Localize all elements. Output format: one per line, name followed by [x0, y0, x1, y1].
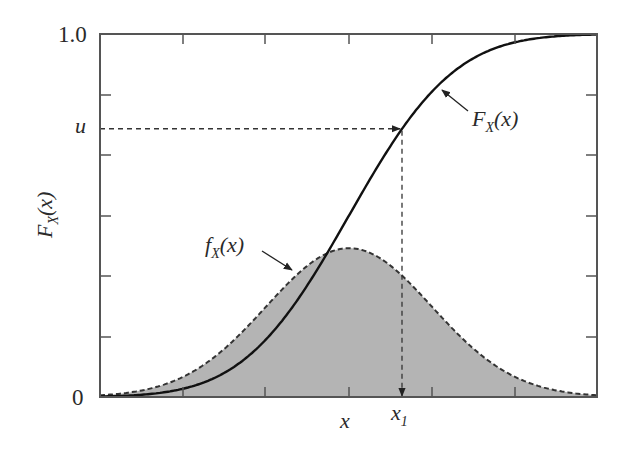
pdf-annotation-label: fX(x) [205, 234, 244, 256]
chart-canvas [0, 0, 631, 451]
cdf-annotation-label: FX(x) [472, 108, 518, 130]
cdf-label-main: F [472, 106, 485, 131]
cdf-annotation-arrow [442, 90, 468, 111]
pdf-annotation-arrow [262, 251, 292, 270]
x1-main: x [391, 400, 401, 425]
ylabel-subscript: X [46, 216, 61, 225]
x-tick-label-x1: x1 [391, 402, 408, 424]
y-axis-label: FX(x) [34, 168, 56, 238]
cdf-label-subscript: X [485, 120, 494, 135]
ylabel-main: F [32, 225, 57, 238]
x1-subscript: 1 [401, 414, 408, 429]
pdf-label-arg: (x) [220, 232, 244, 257]
y-tick-label-top: 1.0 [58, 23, 87, 46]
pdf-shaded-area [100, 248, 597, 397]
cdf-label-arg: (x) [494, 106, 518, 131]
pdf-label-subscript: X [211, 246, 220, 261]
y-tick-label-zero: 0 [72, 386, 84, 409]
x-tick-label-x: x [340, 410, 350, 432]
y-tick-label-u: u [75, 115, 86, 137]
ylabel-arg: (x) [32, 192, 57, 216]
